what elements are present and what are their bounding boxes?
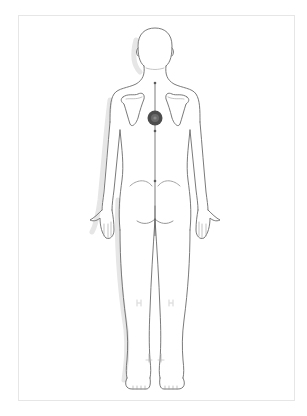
right-foot-outline <box>160 378 185 389</box>
spine-point-top <box>154 82 157 85</box>
right-leg-outer <box>182 230 190 378</box>
right-scapula <box>166 93 189 125</box>
left-scapula <box>121 93 144 125</box>
left-leg-inner <box>149 219 155 378</box>
right-arm-outline <box>200 122 208 210</box>
left-iliac-crest <box>130 181 152 186</box>
body-figure-back <box>0 0 307 416</box>
spine-point-lower <box>154 180 157 183</box>
head-outline <box>138 28 172 66</box>
right-torso-outline <box>187 130 191 230</box>
left-foot-outline <box>126 378 151 389</box>
right-iliac-crest <box>158 181 180 186</box>
spine-point-mid <box>154 130 157 133</box>
right-leg-inner <box>155 219 161 378</box>
right-hand-outline <box>196 210 220 239</box>
body-shadow <box>92 40 140 380</box>
pain-marker[interactable] <box>148 111 163 126</box>
